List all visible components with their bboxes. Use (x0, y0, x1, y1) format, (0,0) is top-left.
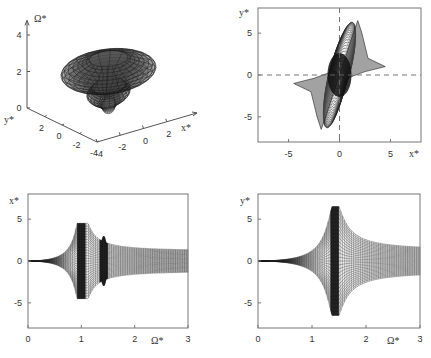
z-axis-label: Ω* (34, 13, 46, 24)
y-tick-label: 5 (247, 214, 252, 224)
y-tick-label: 0 (56, 131, 61, 141)
y-axis-label: y* (4, 114, 14, 125)
panel-x-vs-omega: 0123-505 Ω* x* (9, 194, 191, 346)
panel-y-vs-omega: 0123-505 Ω* y* (240, 194, 423, 346)
z-tick-label: 2 (16, 67, 21, 77)
x-tick-label: 0 (143, 136, 148, 146)
x-tick-label: 3 (417, 334, 422, 344)
surface-mesh (61, 48, 156, 113)
x-tick (119, 132, 120, 135)
x-axis-label: x* (181, 122, 191, 133)
x-tick-label: -2 (118, 142, 126, 152)
x-tick-label: 3 (185, 334, 190, 344)
x-axis-label: Ω* (387, 335, 399, 346)
y-tick (62, 124, 64, 125)
envelope-mesh (28, 223, 188, 298)
z-tick-label: 0 (16, 103, 21, 113)
y-tick-label: 0 (17, 256, 22, 266)
y-tick-label: -5 (244, 298, 252, 308)
z-tick-label: 4 (16, 30, 21, 40)
x-tick (166, 119, 167, 122)
x-tick-label: 5 (388, 149, 393, 159)
panel-3d-surface: 024-4-202-4-202 Ω* y* x* (4, 13, 197, 159)
y-tick-label: -2 (72, 140, 80, 150)
x-tick-label: 1 (309, 334, 314, 344)
x-tick-label: 2 (132, 334, 137, 344)
x-tick-label: 0 (255, 334, 260, 344)
y-tick-label: -5 (14, 298, 22, 308)
x-tick-label: 0 (337, 149, 342, 159)
x-axis-label: Ω* (151, 335, 163, 346)
x-tick (143, 126, 144, 129)
figure-canvas: 024-4-202-4-202 Ω* y* x* -505-505 x* y* … (0, 0, 431, 358)
y-tick (45, 116, 47, 117)
envelope-mesh (258, 207, 420, 316)
x-tick-label: 0 (25, 334, 30, 344)
x-tick-label: 2 (166, 129, 171, 139)
y-tick-label: -5 (244, 112, 252, 122)
y-tick (80, 133, 82, 134)
x-tick-label: -4 (95, 149, 103, 159)
y-tick-label: 2 (39, 123, 44, 133)
panel-xy-projection: -505-505 x* y* (239, 7, 421, 159)
y-tick-label: 0 (247, 70, 252, 80)
y-axis-label: x* (9, 195, 19, 206)
y-tick-label: 0 (247, 256, 252, 266)
x-axis-label: x* (409, 148, 419, 159)
y-axis-label: y* (240, 195, 250, 206)
x-tick-label: 1 (79, 334, 84, 344)
x-tick-label: -5 (285, 149, 293, 159)
x-tick-label: 2 (363, 334, 368, 344)
y-axis-label: y* (239, 7, 249, 18)
y-tick-label: 5 (247, 28, 252, 38)
y-tick-label: 5 (17, 214, 22, 224)
